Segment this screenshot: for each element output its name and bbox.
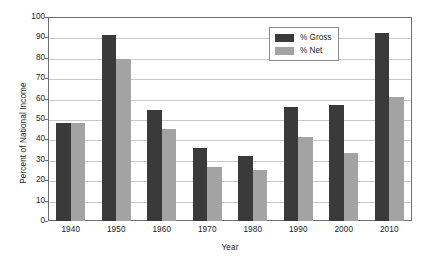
chart-legend: % Gross% Net [269,27,339,61]
gridline [49,140,411,141]
x-axis-tick-label: 1970 [187,224,227,235]
y-axis-tick-labels: 0102030405060708090100 [20,17,45,221]
x-axis-title: Year [48,243,412,252]
bar-chart: Percent of National Income 0102030405060… [0,0,429,266]
x-axis-tick-label: 1960 [142,224,182,235]
y-axis-tick-mark [45,221,48,222]
y-axis-tick-label: 80 [23,54,45,62]
x-axis-tick-label: 1940 [51,224,91,235]
gridline [49,120,411,121]
y-axis-tick-label: 70 [23,74,45,82]
gridline [49,59,411,60]
y-axis-tick-label: 0 [23,217,45,225]
y-axis-tick-label: 40 [23,135,45,143]
x-axis-tick-label: 1980 [233,224,273,235]
y-axis-tick-label: 10 [23,197,45,205]
legend-label: % Net [300,46,322,55]
x-axis-tick-label: 1950 [96,224,136,235]
y-axis-tick-label: 20 [23,176,45,184]
x-axis-tick-labels: 19401950196019701980199020002010 [48,224,412,238]
y-axis-tick-label: 30 [23,156,45,164]
legend-item: % Gross [275,32,331,43]
x-axis-tick-label: 2000 [324,224,364,235]
gridline [49,181,411,182]
gridline [49,202,411,203]
gridline [49,38,411,39]
x-axis-tick-label: 2010 [369,224,409,235]
legend-label: % Gross [300,33,331,42]
y-axis-tick-label: 50 [23,115,45,123]
plot-area [48,17,412,221]
legend-swatch-icon [275,47,294,55]
y-axis-tick-label: 90 [23,33,45,41]
y-axis-tick-label: 60 [23,95,45,103]
gridline [49,79,411,80]
legend-swatch-icon [275,34,294,42]
gridline [49,100,411,101]
y-axis-tick-label: 100 [23,13,45,21]
x-axis-tick-label: 1990 [278,224,318,235]
legend-item: % Net [275,45,331,56]
gridline [49,161,411,162]
